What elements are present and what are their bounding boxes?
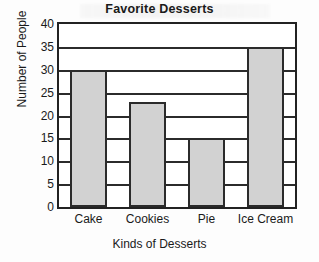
y-tick-label: 10: [8, 155, 54, 167]
bar-chart-figure: Favorite Desserts Number of People 05101…: [0, 0, 319, 262]
x-tick-label: Pie: [198, 212, 215, 226]
y-tick-label: 0: [8, 201, 54, 213]
x-tick-label: Cookies: [126, 212, 169, 226]
x-tick-label: Cake: [74, 212, 102, 226]
bar-pie: [188, 138, 225, 207]
bar-cake: [70, 70, 107, 207]
y-tick-label: 20: [8, 110, 54, 122]
y-tick-label: 40: [8, 18, 54, 30]
chart-title: Favorite Desserts: [0, 2, 319, 16]
x-tick-label: Ice Cream: [238, 212, 293, 226]
y-tick-label: 25: [8, 87, 54, 99]
y-tick-label: 5: [8, 178, 54, 190]
bar-ice-cream: [247, 47, 284, 207]
y-tick-label: 35: [8, 41, 54, 53]
x-axis-title: Kinds of Desserts: [0, 237, 319, 251]
y-tick-label: 30: [8, 64, 54, 76]
bar-cookies: [129, 102, 166, 207]
y-tick-label: 15: [8, 132, 54, 144]
plot-area: 0510152025303540 CakeCookiesPieIce Cream: [57, 22, 297, 209]
